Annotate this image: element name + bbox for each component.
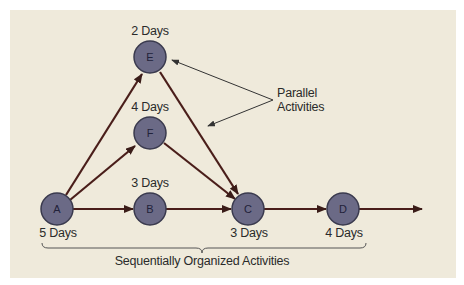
network-diagram: A B C D E F	[0, 0, 464, 285]
node-b-label: B	[146, 203, 153, 215]
sequential-bracket	[42, 243, 366, 253]
node-a-label: A	[53, 203, 61, 215]
parallel-line-2: Activities	[277, 100, 324, 114]
parallel-activities-label: Parallel Activities	[277, 86, 324, 114]
pointer-to-f-c-edge	[208, 100, 273, 126]
edge-e-c	[160, 72, 238, 194]
duration-f: 4 Days	[131, 100, 169, 114]
node-e-label: E	[146, 51, 153, 63]
duration-e: 2 Days	[131, 24, 169, 38]
sequential-activities-label: Sequentially Organized Activities	[115, 254, 290, 268]
node-f-label: F	[147, 127, 154, 139]
duration-b: 3 Days	[131, 176, 169, 190]
duration-d: 4 Days	[325, 226, 363, 240]
duration-c: 3 Days	[230, 226, 268, 240]
node-d-label: D	[339, 203, 347, 215]
duration-a: 5 Days	[39, 226, 77, 240]
node-c-label: C	[244, 203, 252, 215]
pointer-to-e	[172, 60, 273, 100]
parallel-line-1: Parallel	[277, 86, 324, 100]
